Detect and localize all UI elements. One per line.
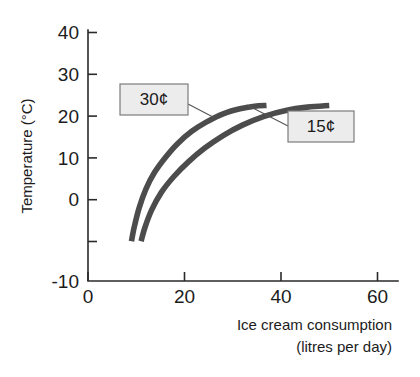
y-axis-title: Temperature (°C)	[18, 98, 35, 213]
y-tick-label-40: 40	[58, 22, 79, 43]
callout-30c-label: 30¢	[140, 90, 168, 109]
chart-page: 40 30 20 10 0 -10 0 20 40 60 Temperature…	[0, 0, 420, 377]
x-tick-label-40: 40	[270, 286, 291, 307]
y-tick-label-minus10: -10	[52, 271, 79, 292]
callout-30c[interactable]: 30¢	[120, 84, 188, 115]
callout-15c-label: 15¢	[307, 117, 335, 136]
x-tick-label-60: 60	[367, 286, 388, 307]
y-tick-label-30: 30	[58, 64, 79, 85]
ice-cream-consumption-chart: 40 30 20 10 0 -10 0 20 40 60 Temperature…	[0, 0, 420, 377]
y-tick-label-20: 20	[58, 106, 79, 127]
x-tick-label-0: 0	[83, 286, 94, 307]
x-axis-title: Ice cream consumption	[237, 316, 392, 333]
x-tick-label-20: 20	[174, 286, 195, 307]
y-tick-label-0: 0	[68, 189, 79, 210]
callout-15c[interactable]: 15¢	[288, 111, 354, 142]
y-tick-label-10: 10	[58, 148, 79, 169]
x-axis-title-units: (litres per day)	[296, 338, 392, 355]
